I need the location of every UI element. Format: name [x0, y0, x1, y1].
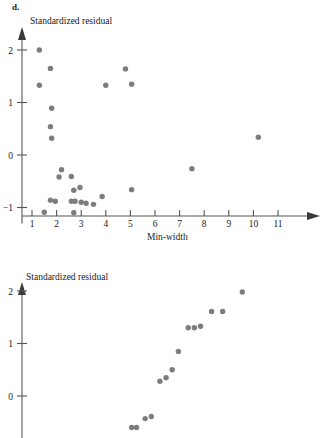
data-point	[157, 379, 162, 384]
x-tick-label: 8	[202, 219, 207, 229]
x-tick-label: 7	[177, 219, 182, 229]
data-point	[189, 166, 194, 171]
data-point	[42, 210, 47, 215]
data-point	[149, 414, 154, 419]
x-tick-label: 5	[128, 219, 133, 229]
x-tick-label: 3	[79, 219, 84, 229]
data-point	[59, 167, 64, 172]
y-tick-label: 0	[8, 151, 13, 161]
data-point	[142, 416, 147, 421]
y-axis-arrow	[18, 282, 26, 295]
data-point	[198, 323, 203, 328]
x-tick-label: 10	[249, 219, 259, 229]
data-point	[192, 325, 197, 330]
data-point	[49, 136, 54, 141]
data-point	[37, 47, 42, 52]
x-axis-title-chart1: Min-width	[147, 232, 188, 242]
data-point	[163, 375, 168, 380]
data-point	[256, 134, 261, 139]
x-tick-label: 6	[153, 219, 158, 229]
data-point	[83, 201, 88, 206]
y-tick-label: 1	[8, 98, 13, 108]
plot-area-chart1: −10121234567891011	[0, 0, 336, 260]
data-point	[99, 194, 104, 199]
data-point	[53, 199, 58, 204]
scatter-chart-normal-plot: Standardized residual 012	[0, 260, 336, 438]
data-point	[123, 66, 128, 71]
data-point	[170, 367, 175, 372]
data-point	[176, 349, 181, 354]
data-point	[48, 197, 53, 202]
data-point	[79, 200, 84, 205]
data-point	[220, 309, 225, 314]
y-tick-label: 0	[8, 392, 13, 402]
data-point	[72, 199, 77, 204]
y-tick-label: 2	[8, 287, 13, 297]
data-point	[56, 174, 61, 179]
data-point	[69, 174, 74, 179]
x-tick-label: 11	[273, 219, 282, 229]
data-point	[37, 82, 42, 87]
data-point	[48, 66, 53, 71]
y-tick-label: 2	[8, 46, 13, 56]
data-point	[129, 81, 134, 86]
data-point	[134, 425, 139, 430]
x-tick-label: 1	[30, 219, 35, 229]
scatter-chart-min-width: Standardized residual −10121234567891011…	[0, 0, 336, 260]
data-point	[77, 185, 82, 190]
x-tick-label: 9	[226, 219, 231, 229]
data-point	[103, 82, 108, 87]
x-tick-label: 2	[54, 219, 59, 229]
x-axis-arrow	[307, 212, 320, 220]
x-tick-label: 4	[103, 219, 108, 229]
plot-area-chart2: 012	[0, 260, 336, 438]
data-point	[186, 325, 191, 330]
data-point	[91, 202, 96, 207]
data-point	[209, 309, 214, 314]
data-point	[48, 124, 53, 129]
y-tick-label: −1	[3, 203, 13, 213]
y-axis-arrow	[18, 27, 26, 40]
data-point	[71, 187, 76, 192]
y-tick-label: 1	[8, 339, 13, 349]
data-point	[71, 210, 76, 215]
data-point	[49, 106, 54, 111]
data-point	[240, 289, 245, 294]
data-point	[129, 425, 134, 430]
data-point	[129, 187, 134, 192]
